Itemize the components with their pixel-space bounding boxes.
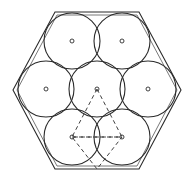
packing-diagram xyxy=(0,0,195,179)
figure-container xyxy=(0,0,195,179)
